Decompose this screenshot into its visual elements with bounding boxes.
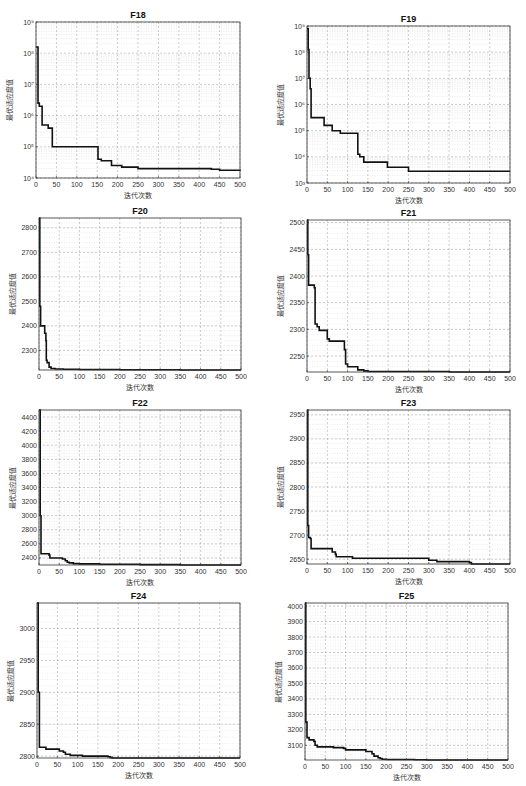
svg-text:2400: 2400 xyxy=(289,273,305,280)
svg-text:250: 250 xyxy=(133,761,145,768)
svg-text:2650: 2650 xyxy=(289,556,305,563)
svg-text:500: 500 xyxy=(235,373,247,380)
svg-text:2450: 2450 xyxy=(289,246,305,253)
y-tick-labels: 225023002350240024502500 xyxy=(289,219,309,359)
chart-f21: 0501001502002503003504004505002250230023… xyxy=(273,204,516,400)
svg-text:250: 250 xyxy=(403,186,415,193)
svg-text:0: 0 xyxy=(37,373,41,380)
svg-text:300: 300 xyxy=(154,568,166,575)
svg-text:500: 500 xyxy=(504,186,516,193)
svg-text:100: 100 xyxy=(342,567,354,574)
svg-text:250: 250 xyxy=(401,763,413,770)
svg-text:10⁸: 10⁸ xyxy=(23,50,34,57)
svg-text:3800: 3800 xyxy=(21,456,37,463)
svg-text:50: 50 xyxy=(323,567,331,574)
svg-text:50: 50 xyxy=(55,373,63,380)
svg-text:250: 250 xyxy=(403,567,415,574)
svg-text:350: 350 xyxy=(443,375,455,382)
svg-text:500: 500 xyxy=(235,568,247,575)
svg-text:2700: 2700 xyxy=(21,249,37,256)
svg-text:200: 200 xyxy=(382,186,394,193)
svg-text:10⁵: 10⁵ xyxy=(23,143,34,150)
svg-text:10⁵: 10⁵ xyxy=(294,127,305,134)
svg-text:2400: 2400 xyxy=(21,322,37,329)
x-axis-label: 迭代次数 xyxy=(395,385,423,394)
svg-text:4400: 4400 xyxy=(21,414,37,421)
svg-text:10⁸: 10⁸ xyxy=(294,49,305,56)
svg-text:2850: 2850 xyxy=(289,459,305,466)
svg-text:450: 450 xyxy=(214,181,226,188)
chart-f25: 0501001502002503003504004505003100320033… xyxy=(271,587,514,786)
svg-text:0: 0 xyxy=(305,567,309,574)
svg-text:200: 200 xyxy=(380,763,392,770)
svg-text:2750: 2750 xyxy=(289,508,305,515)
chart-title: F19 xyxy=(401,14,417,24)
svg-text:150: 150 xyxy=(92,761,104,768)
svg-text:3300: 3300 xyxy=(287,711,303,718)
svg-text:2500: 2500 xyxy=(289,219,305,226)
svg-text:350: 350 xyxy=(173,761,185,768)
svg-text:200: 200 xyxy=(112,181,124,188)
svg-text:200: 200 xyxy=(114,568,126,575)
svg-text:3800: 3800 xyxy=(287,634,303,641)
svg-text:4200: 4200 xyxy=(21,428,37,435)
svg-text:450: 450 xyxy=(482,763,494,770)
y-axis-label: 最优适应度值 xyxy=(276,466,285,508)
svg-text:350: 350 xyxy=(175,373,187,380)
svg-text:400: 400 xyxy=(464,375,476,382)
svg-text:2900: 2900 xyxy=(289,435,305,442)
svg-text:2950: 2950 xyxy=(19,657,35,664)
svg-text:2350: 2350 xyxy=(289,299,305,306)
svg-text:3500: 3500 xyxy=(287,680,303,687)
svg-text:2500: 2500 xyxy=(21,298,37,305)
chart-f23: 0501001502002503003504004505002650270027… xyxy=(273,394,516,592)
svg-text:10⁶: 10⁶ xyxy=(23,112,34,119)
y-axis-label: 最优适应度值 xyxy=(274,661,283,703)
svg-text:2250: 2250 xyxy=(289,353,305,360)
svg-text:200: 200 xyxy=(112,761,124,768)
svg-text:500: 500 xyxy=(234,761,246,768)
svg-text:3600: 3600 xyxy=(21,470,37,477)
svg-text:10⁷: 10⁷ xyxy=(24,81,35,88)
svg-text:0: 0 xyxy=(35,761,39,768)
svg-text:400: 400 xyxy=(195,568,207,575)
svg-text:50: 50 xyxy=(323,186,331,193)
y-tick-labels: 2650270027502800285029002950 xyxy=(289,411,309,562)
svg-text:50: 50 xyxy=(321,763,329,770)
svg-text:3600: 3600 xyxy=(287,664,303,671)
svg-text:300: 300 xyxy=(154,373,166,380)
svg-text:500: 500 xyxy=(502,763,514,770)
x-axis-label: 迭代次数 xyxy=(124,191,152,200)
svg-text:3000: 3000 xyxy=(21,512,37,519)
svg-text:200: 200 xyxy=(114,373,126,380)
svg-text:450: 450 xyxy=(215,373,227,380)
svg-text:100: 100 xyxy=(340,763,352,770)
y-axis-label: 最优适应度值 xyxy=(6,660,15,702)
svg-text:0: 0 xyxy=(305,186,309,193)
svg-text:150: 150 xyxy=(94,568,106,575)
svg-text:100: 100 xyxy=(342,375,354,382)
svg-text:2300: 2300 xyxy=(21,347,37,354)
svg-text:150: 150 xyxy=(94,373,106,380)
chart-title: F21 xyxy=(401,208,417,218)
svg-text:300: 300 xyxy=(423,375,435,382)
svg-text:150: 150 xyxy=(91,181,103,188)
x-axis-label: 迭代次数 xyxy=(126,383,154,392)
svg-text:2950: 2950 xyxy=(289,411,305,418)
svg-text:400: 400 xyxy=(194,761,206,768)
svg-text:200: 200 xyxy=(382,567,394,574)
y-tick-labels: 2400260028003000320034003600380040004200… xyxy=(21,414,41,562)
svg-text:350: 350 xyxy=(443,567,455,574)
svg-text:3200: 3200 xyxy=(21,498,37,505)
svg-text:100: 100 xyxy=(72,761,84,768)
y-tick-labels: 28002850290029503000 xyxy=(19,625,39,760)
svg-text:300: 300 xyxy=(153,181,165,188)
y-axis-label: 最优适应度值 xyxy=(276,275,285,317)
svg-text:300: 300 xyxy=(153,761,165,768)
y-tick-labels: 3100320033003400350036003700380039004000 xyxy=(287,603,307,749)
y-axis-label: 最优适应度值 xyxy=(5,79,14,121)
svg-text:10⁶: 10⁶ xyxy=(294,101,305,108)
svg-text:50: 50 xyxy=(55,568,63,575)
svg-text:450: 450 xyxy=(484,375,496,382)
svg-text:2850: 2850 xyxy=(19,721,35,728)
